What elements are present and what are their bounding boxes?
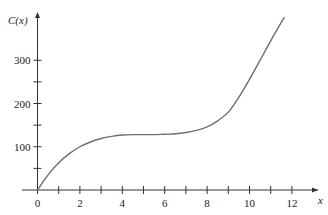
cost-curve: [38, 17, 285, 190]
x-axis-arrow-icon: [312, 188, 318, 193]
x-tick-label: 2: [77, 197, 83, 209]
x-tick-label: 8: [204, 197, 210, 209]
tick-labels: 024681012100200300: [14, 54, 297, 209]
ticks: [34, 60, 292, 194]
x-tick-label: 4: [120, 197, 126, 209]
y-tick-label: 300: [14, 54, 31, 66]
x-tick-label: 12: [286, 197, 297, 209]
x-axis-label: x: [317, 194, 323, 206]
y-axis-arrow-icon: [35, 12, 40, 18]
y-axis-label: C(x): [8, 14, 28, 27]
x-tick-label: 0: [35, 197, 41, 209]
y-tick-label: 100: [14, 141, 31, 153]
x-tick-label: 6: [162, 197, 168, 209]
x-tick-label: 10: [244, 197, 256, 209]
cost-function-chart: 024681012100200300 C(x) x: [0, 0, 328, 215]
y-tick-label: 200: [14, 98, 31, 110]
axes: [22, 12, 318, 194]
